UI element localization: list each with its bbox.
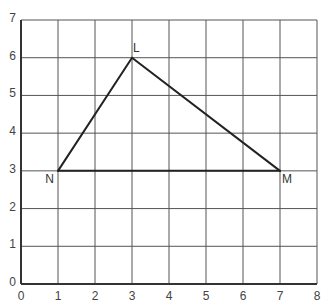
y-tick-label: 6 xyxy=(9,49,16,63)
x-tick-label: 5 xyxy=(203,289,210,303)
grid-lines xyxy=(21,20,317,284)
y-axis-tick-labels: 01234567 xyxy=(9,11,16,289)
y-tick-label: 5 xyxy=(9,86,16,100)
coordinate-grid-chart: 012345678 01234567 LMN xyxy=(0,0,328,307)
x-tick-label: 0 xyxy=(18,289,25,303)
y-tick-label: 3 xyxy=(9,162,16,176)
x-tick-label: 2 xyxy=(92,289,99,303)
x-tick-label: 1 xyxy=(55,289,62,303)
x-tick-label: 4 xyxy=(166,289,173,303)
y-tick-label: 4 xyxy=(9,124,16,138)
y-tick-label: 7 xyxy=(9,11,16,25)
x-tick-label: 7 xyxy=(277,289,284,303)
vertex-label-n: N xyxy=(45,172,54,186)
x-tick-label: 6 xyxy=(240,289,247,303)
y-tick-label: 0 xyxy=(9,275,16,289)
x-tick-label: 3 xyxy=(129,289,136,303)
vertex-label-l: L xyxy=(133,41,140,55)
x-tick-label: 8 xyxy=(314,289,321,303)
vertex-label-m: M xyxy=(282,172,292,186)
y-tick-label: 2 xyxy=(9,200,16,214)
x-axis-tick-labels: 012345678 xyxy=(18,289,321,303)
y-tick-label: 1 xyxy=(9,237,16,251)
